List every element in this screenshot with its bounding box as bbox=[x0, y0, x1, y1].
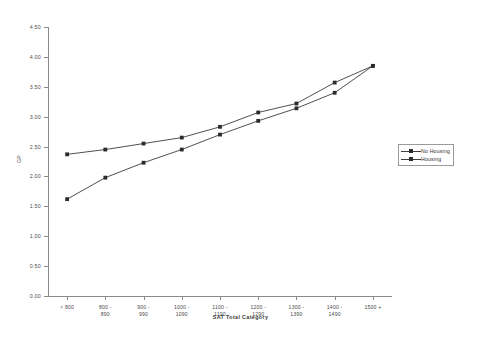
data-point bbox=[142, 161, 146, 165]
data-point bbox=[218, 133, 222, 137]
data-point bbox=[295, 106, 299, 110]
data-point bbox=[103, 148, 107, 152]
data-point bbox=[333, 91, 337, 95]
chart-legend: No Housing Housing bbox=[398, 144, 454, 166]
y-axis-title: GP bbox=[16, 155, 22, 163]
y-tick-label: 1.00 bbox=[30, 233, 41, 239]
legend-label: Housing bbox=[421, 156, 441, 162]
x-tick bbox=[258, 296, 259, 300]
x-tick bbox=[182, 296, 183, 300]
series-plot bbox=[48, 27, 392, 296]
y-tick-label: 2.00 bbox=[30, 173, 41, 179]
data-point bbox=[295, 102, 299, 106]
y-tick-label: 0.50 bbox=[30, 263, 41, 269]
x-tick bbox=[144, 296, 145, 300]
legend-swatch-icon bbox=[401, 156, 421, 163]
legend-label: No Housing bbox=[421, 148, 450, 154]
y-tick-label: 2.50 bbox=[30, 144, 41, 150]
y-tick-label: 3.50 bbox=[30, 84, 41, 90]
series-line-housing bbox=[67, 66, 373, 199]
legend-swatch-icon bbox=[401, 148, 421, 155]
legend-item-no-housing[interactable]: No Housing bbox=[401, 147, 450, 155]
data-point bbox=[180, 136, 184, 140]
plot-area: 0.000.501.001.502.002.503.003.504.004.50… bbox=[48, 27, 392, 296]
y-tick-label: 4.00 bbox=[30, 54, 41, 60]
x-tick-label: 1500 + bbox=[353, 304, 393, 311]
line-chart: 0.000.501.001.502.002.503.003.504.004.50… bbox=[0, 0, 481, 339]
data-point bbox=[142, 142, 146, 146]
y-tick-label: 0.00 bbox=[30, 293, 41, 299]
x-tick bbox=[296, 296, 297, 300]
data-point bbox=[256, 111, 260, 115]
data-point bbox=[371, 64, 375, 68]
x-tick bbox=[105, 296, 106, 300]
x-axis-title: SAT Total Category bbox=[0, 314, 481, 320]
data-point bbox=[180, 148, 184, 152]
x-tick bbox=[67, 296, 68, 300]
y-tick-label: 1.50 bbox=[30, 203, 41, 209]
legend-item-housing[interactable]: Housing bbox=[401, 155, 450, 163]
data-point bbox=[103, 176, 107, 180]
x-tick bbox=[220, 296, 221, 300]
series-line-no-housing bbox=[67, 66, 373, 154]
x-tick bbox=[373, 296, 374, 300]
x-tick-label: < 800 bbox=[47, 304, 87, 311]
data-point bbox=[65, 197, 69, 201]
data-point bbox=[65, 152, 69, 156]
y-tick bbox=[44, 296, 48, 297]
x-tick bbox=[335, 296, 336, 300]
data-point bbox=[218, 125, 222, 129]
y-tick-label: 3.00 bbox=[30, 114, 41, 120]
y-tick-label: 4.50 bbox=[30, 24, 41, 30]
data-point bbox=[256, 119, 260, 123]
data-point bbox=[333, 81, 337, 85]
